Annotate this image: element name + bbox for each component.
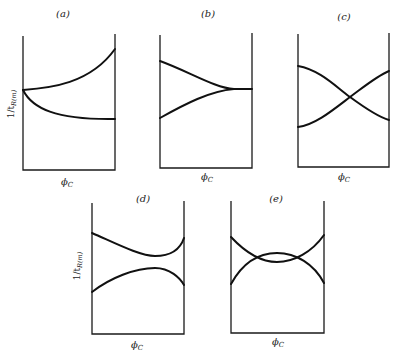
curve-c-falling <box>298 66 389 120</box>
panel-label-a: (a) <box>56 8 70 19</box>
x-axis-label-a: ϕC <box>61 176 74 189</box>
curve-e-u-shape <box>231 235 324 262</box>
panel-e: (e) ϕC <box>231 193 324 349</box>
axes-frame-a <box>23 34 115 170</box>
panel-b: (b) ϕC <box>160 8 252 184</box>
x-axis-label-d: ϕC <box>131 339 144 352</box>
axes-frame-b <box>160 33 252 168</box>
figure-canvas: (a) 1/tR(m) ϕC (b) ϕC (c) ϕC (d) 1/tR(m)… <box>0 0 398 354</box>
curve-d-upper <box>92 233 184 256</box>
panel-label-c: (c) <box>337 11 351 22</box>
curve-c-rising <box>298 71 389 127</box>
curve-b-upper <box>160 61 252 89</box>
axes-frame-c <box>298 33 389 167</box>
curve-d-lower <box>92 268 184 292</box>
curve-b-lower <box>160 89 234 118</box>
x-axis-label-e: ϕC <box>272 336 285 349</box>
panel-label-e: (e) <box>269 193 283 204</box>
curve-e-arch <box>231 253 324 284</box>
panel-d: (d) 1/tR(m) ϕC <box>72 193 184 352</box>
panel-c: (c) ϕC <box>298 11 389 184</box>
curve-a-lower <box>23 90 115 119</box>
x-axis-label-c: ϕC <box>338 171 351 184</box>
y-axis-label-a: 1/tR(m) <box>6 89 18 118</box>
y-axis-label-d: 1/tR(m) <box>72 251 84 280</box>
panel-label-d: (d) <box>136 193 150 204</box>
x-axis-label-b: ϕC <box>201 171 214 184</box>
panel-label-b: (b) <box>201 8 215 19</box>
axes-frame-d <box>92 201 184 334</box>
panel-a: (a) 1/tR(m) ϕC <box>6 8 115 189</box>
axes-frame-e <box>231 201 324 333</box>
curve-a-upper <box>23 49 115 90</box>
